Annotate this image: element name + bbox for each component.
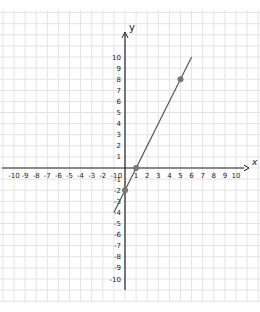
x-tick-label: 6 (189, 172, 194, 180)
y-tick-label: 7 (117, 87, 121, 95)
y-axis-label: y (129, 22, 135, 33)
y-tick-label: -5 (114, 220, 121, 228)
x-tick-label: -9 (22, 172, 29, 180)
x-tick-label: 10 (232, 172, 241, 180)
y-tick-label: 4 (117, 120, 122, 128)
x-tick-label: 8 (212, 172, 216, 180)
y-tick-label: 1 (117, 153, 121, 161)
y-tick-label: 9 (117, 65, 121, 73)
x-tick-label: 4 (167, 172, 172, 180)
data-point (122, 187, 128, 193)
x-tick-label: 9 (223, 172, 227, 180)
y-tick-label: 2 (117, 142, 121, 150)
y-tick-label: -6 (114, 231, 122, 239)
y-tick-label: 5 (117, 109, 121, 117)
x-tick-label: -7 (44, 172, 51, 180)
x-tick-label: -2 (99, 172, 106, 180)
x-tick-label: -5 (66, 172, 73, 180)
x-tick-label: 1 (134, 172, 138, 180)
y-tick-label: 6 (117, 98, 122, 106)
x-tick-label: -10 (8, 172, 19, 180)
x-axis-label: x (252, 157, 257, 167)
y-tick-label: -2 (114, 187, 121, 195)
y-tick-label: -1 (114, 176, 121, 184)
coordinate-plane: -10-9-8-7-6-5-4-3-2-1012345678910-10-9-8… (0, 0, 260, 312)
x-tick-label: -3 (88, 172, 95, 180)
x-tick-label: 3 (156, 172, 160, 180)
data-point (133, 165, 139, 171)
y-tick-label: 8 (117, 76, 121, 84)
x-tick-label: -6 (55, 172, 63, 180)
y-tick-label: -7 (114, 242, 121, 250)
graph: -10-9-8-7-6-5-4-3-2-1012345678910-10-9-8… (0, 0, 260, 312)
data-point (178, 76, 184, 82)
x-tick-label: 2 (145, 172, 149, 180)
x-tick-label: 5 (178, 172, 182, 180)
y-tick-label: -10 (110, 276, 121, 284)
y-tick-label: -9 (114, 264, 121, 272)
x-tick-label: -8 (33, 172, 40, 180)
y-tick-label: 3 (117, 131, 121, 139)
y-tick-label: -8 (114, 253, 121, 261)
x-tick-label: 7 (200, 172, 204, 180)
x-tick-label: -4 (77, 172, 85, 180)
y-tick-label: 10 (112, 54, 121, 62)
